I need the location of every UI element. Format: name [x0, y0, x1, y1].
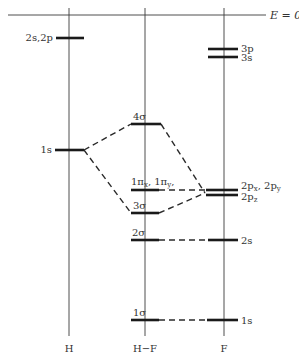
3sigma-to-f2p-connector — [159, 193, 205, 213]
column-label-f: F — [221, 343, 228, 354]
hf-4sigma-label: 4σ — [133, 111, 146, 122]
f-2s-label: 2s — [241, 235, 253, 246]
hf-1pi-label: 1πx, 1πy, — [131, 176, 174, 189]
column-label-h: H — [65, 343, 74, 354]
hf-2sigma-label: 2σ — [132, 227, 145, 238]
mo-diagram: E = 0 2s,2p 1s 4σ 1πx, 1πy, 3σ 2σ 1σ 3p … — [0, 0, 299, 359]
column-label-hf: H−F — [133, 343, 157, 354]
h1s-to-4sigma-connector — [84, 124, 131, 150]
h1s-to-3sigma-connector — [84, 150, 131, 213]
f-1s-label: 1s — [241, 315, 253, 326]
hf-1sigma-label: 1σ — [133, 307, 146, 318]
h-1s-label: 1s — [41, 144, 53, 155]
energy-zero-label: E = 0 — [269, 9, 299, 22]
h-2s2p-label: 2s,2p — [26, 32, 53, 43]
hf-3sigma-label: 3σ — [133, 200, 146, 211]
f-3s-label: 3s — [241, 52, 253, 63]
